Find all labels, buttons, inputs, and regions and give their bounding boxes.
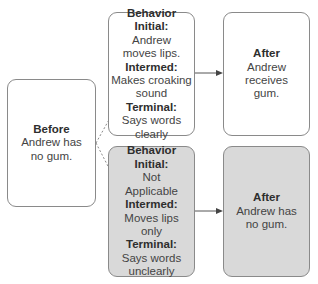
after-line-2: no gum.: [246, 218, 288, 231]
terminal-label: Terminal:: [126, 101, 177, 114]
intermed-line-1: Makes croaking: [111, 74, 192, 87]
initial-label: Initial:: [135, 20, 169, 33]
initial-label: Initial:: [135, 158, 169, 171]
intermed-label: Intermed:: [125, 198, 177, 211]
intermed-line-2: sound: [136, 87, 167, 100]
after-box-top: After Andrew receives gum.: [223, 12, 310, 136]
terminal-label: Terminal:: [126, 238, 177, 251]
intermed-label: Intermed:: [125, 61, 177, 74]
before-text-line-2: no gum.: [31, 150, 73, 163]
before-text-line-1: Andrew has: [21, 136, 82, 149]
before-heading: Before: [33, 123, 69, 136]
after-heading: After: [253, 47, 280, 60]
arrow-head-bottom-icon: [216, 208, 223, 214]
after-box-bottom: After Andrew has no gum.: [223, 146, 310, 277]
terminal-line-1: Says words: [122, 114, 181, 127]
after-line-1: Andrew: [247, 61, 286, 74]
initial-line-2: Applicable: [125, 185, 178, 198]
initial-line-2: moves lips.: [123, 47, 181, 60]
terminal-line-2: unclearly: [128, 265, 174, 278]
after-heading: After: [253, 191, 280, 204]
terminal-line-1: Says words: [122, 252, 181, 265]
after-line-3: gum.: [254, 87, 280, 100]
arrow-head-top-icon: [216, 70, 223, 76]
initial-line-1: Not: [143, 171, 161, 184]
after-line-2: receives: [245, 74, 288, 87]
before-box: Before Andrew has no gum.: [7, 79, 96, 207]
initial-line-1: Andrew: [132, 34, 171, 47]
terminal-line-2: clearly: [135, 128, 168, 141]
intermed-line-1: Moves lips: [124, 212, 178, 225]
after-line-1: Andrew has: [236, 205, 297, 218]
behavior-box-top: Behavior Initial: Andrew moves lips. Int…: [108, 12, 195, 136]
behavior-heading: Behavior: [127, 7, 176, 20]
behavior-box-bottom: Behavior Initial: Not Applicable Interme…: [108, 146, 195, 277]
intermed-line-2: only: [141, 225, 162, 238]
behavior-heading: Behavior: [127, 144, 176, 157]
